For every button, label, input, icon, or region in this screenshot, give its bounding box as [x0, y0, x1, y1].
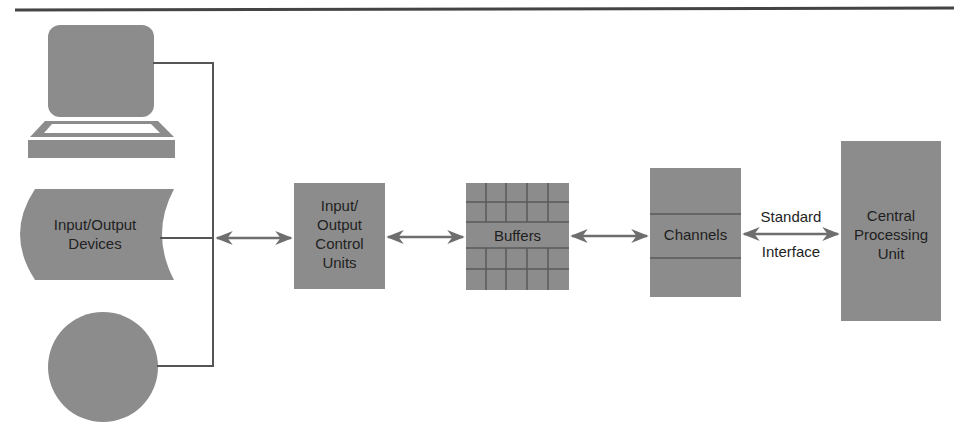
buffers-label: Buffers: [466, 226, 569, 245]
interface-label-bottom: Interface: [744, 242, 838, 261]
io-diagram: Input/Output Devices Input/ Output Contr…: [0, 0, 954, 429]
control-units-label: Input/ Output Control Units: [294, 196, 385, 272]
cpu-label: Central Processing Unit: [841, 206, 941, 263]
channels-label: Channels: [650, 225, 741, 244]
terminal-icon: [28, 25, 175, 158]
disk-icon: [48, 312, 158, 422]
header-rule: [15, 8, 954, 10]
devices-label: Input/Output Devices: [20, 215, 170, 253]
interface-label-top: Standard: [744, 207, 838, 226]
